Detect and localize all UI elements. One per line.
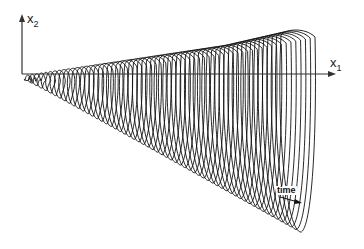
trajectory-loops <box>24 30 316 232</box>
x-axis-label: x1 <box>330 56 342 73</box>
trajectory-loop <box>184 50 209 175</box>
trajectory-loop <box>41 72 50 90</box>
trajectory-loop <box>180 51 205 173</box>
y-axis-arrow-icon <box>19 14 25 22</box>
time-arrow-head-icon <box>294 199 302 204</box>
trajectory-loop <box>154 55 176 158</box>
trajectory-loop <box>150 55 171 154</box>
trajectory-loop <box>176 51 200 170</box>
phase-plot <box>0 0 364 249</box>
y-axis-label: x2 <box>27 12 39 29</box>
time-annotation: time <box>276 186 297 195</box>
trajectory-loop <box>28 74 36 83</box>
trajectory-loop <box>158 54 180 160</box>
